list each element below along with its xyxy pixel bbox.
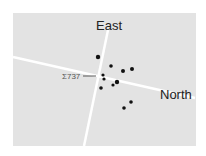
- star: [102, 77, 105, 80]
- star: [109, 64, 113, 68]
- star: [121, 69, 125, 73]
- north-label: North: [160, 87, 192, 102]
- star: [96, 55, 100, 59]
- star: [99, 86, 103, 90]
- star-designation-label: Σ737: [62, 72, 80, 81]
- star: [101, 73, 104, 76]
- star: [130, 67, 134, 71]
- star: [122, 106, 126, 110]
- star: [129, 100, 133, 104]
- star: [111, 83, 114, 86]
- star: [115, 80, 119, 84]
- east-label: East: [96, 18, 122, 33]
